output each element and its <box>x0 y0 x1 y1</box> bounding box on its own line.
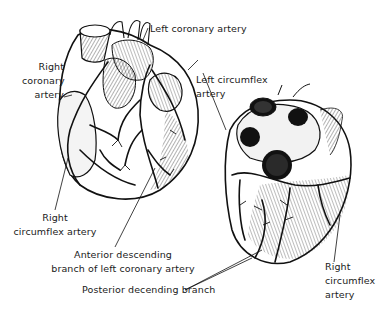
posterior-heart <box>225 84 351 263</box>
label-right-circumflex-artery-anterior: Right circumflex artery <box>10 211 100 239</box>
label-left-coronary-artery: Left coronary artery <box>150 22 247 36</box>
heart-coronary-diagram: Left coronary artery Right coronary arte… <box>0 0 386 310</box>
label-right-circumflex-artery-posterior: Right circumflex artery <box>325 260 375 302</box>
anterior-heart <box>58 21 199 199</box>
label-left-circumflex-artery: Left circumflex artery <box>196 73 268 101</box>
label-right-coronary-artery: Right coronary artery <box>22 60 64 102</box>
label-anterior-descending-branch: Anterior descending branch of left coron… <box>48 248 198 276</box>
label-posterior-descending-branch: Posterior decending branch <box>82 283 215 297</box>
